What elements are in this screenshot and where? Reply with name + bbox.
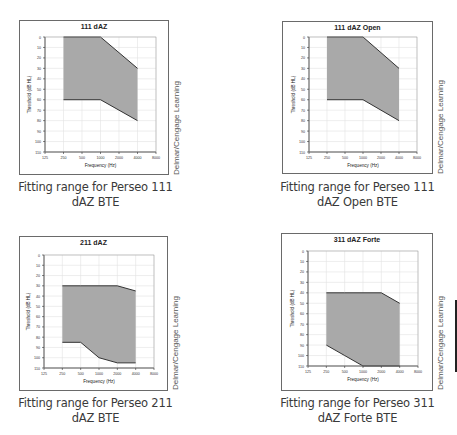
credit-text: Delmar/Cengage Learning xyxy=(436,296,445,390)
svg-text:20: 20 xyxy=(37,56,41,60)
svg-text:0: 0 xyxy=(39,36,41,40)
svg-text:100: 100 xyxy=(34,356,40,360)
svg-text:1000: 1000 xyxy=(359,156,367,160)
svg-text:70: 70 xyxy=(300,323,304,327)
svg-text:20: 20 xyxy=(301,56,305,60)
svg-text:250: 250 xyxy=(323,370,329,374)
svg-text:40: 40 xyxy=(301,77,305,81)
chart-frame: 111 dAZ 01020304050607080901001101252505… xyxy=(19,20,169,175)
svg-text:70: 70 xyxy=(36,325,40,329)
svg-text:80: 80 xyxy=(300,333,304,337)
fitting-range-area xyxy=(326,293,399,366)
chart-frame: 111 dAZ Open 010203040506070809010011012… xyxy=(282,21,433,174)
svg-text:70: 70 xyxy=(301,109,305,113)
svg-text:20: 20 xyxy=(300,270,304,274)
svg-text:100: 100 xyxy=(35,140,41,144)
svg-text:500: 500 xyxy=(342,370,348,374)
figure-caption: Fitting range for Perseo 111 dAZ Open BT… xyxy=(270,180,445,210)
svg-text:30: 30 xyxy=(37,67,41,71)
svg-text:Frequency (Hz): Frequency (Hz) xyxy=(347,377,379,382)
svg-text:8000: 8000 xyxy=(413,156,421,160)
svg-text:90: 90 xyxy=(36,346,40,350)
svg-text:250: 250 xyxy=(324,156,330,160)
svg-text:Threshold (dB HL): Threshold (dB HL) xyxy=(26,292,31,330)
svg-text:20: 20 xyxy=(36,274,40,278)
figure-caption: Fitting range for Perseo 111 dAZ BTE xyxy=(8,180,183,210)
svg-text:125: 125 xyxy=(305,370,311,374)
svg-text:1000: 1000 xyxy=(97,156,105,160)
svg-text:80: 80 xyxy=(301,119,305,123)
chart-frame: 311 dAZ Forte 01020304050607080901001101… xyxy=(281,233,433,391)
svg-text:40: 40 xyxy=(300,291,304,295)
svg-text:10: 10 xyxy=(301,46,305,50)
caption-line-2: dAZ BTE xyxy=(8,195,183,210)
caption-line-2: dAZ BTE xyxy=(8,411,183,426)
svg-text:0: 0 xyxy=(38,254,40,258)
caption-line-1: Fitting range for Perseo 211 xyxy=(8,396,183,411)
svg-text:50: 50 xyxy=(300,302,304,306)
svg-text:Threshold (dB HL): Threshold (dB HL) xyxy=(290,289,295,327)
svg-text:10: 10 xyxy=(300,260,304,264)
svg-text:Frequency (Hz): Frequency (Hz) xyxy=(347,163,379,168)
fitting-range-area xyxy=(62,286,135,363)
svg-text:0: 0 xyxy=(302,250,304,254)
svg-text:50: 50 xyxy=(36,305,40,309)
credit-text: Delmar/Cengage Learning xyxy=(172,81,181,175)
svg-text:500: 500 xyxy=(79,156,85,160)
svg-text:2000: 2000 xyxy=(113,372,121,376)
svg-text:Frequency (Hz): Frequency (Hz) xyxy=(85,163,117,168)
caption-line-1: Fitting range for Perseo 111 xyxy=(8,180,183,195)
svg-text:4000: 4000 xyxy=(134,156,142,160)
svg-text:Frequency (Hz): Frequency (Hz) xyxy=(83,379,115,384)
svg-text:40: 40 xyxy=(36,295,40,299)
svg-text:8000: 8000 xyxy=(414,370,422,374)
svg-text:0: 0 xyxy=(303,36,305,40)
svg-text:4000: 4000 xyxy=(396,370,404,374)
caption-line-1: Fitting range for Perseo 311 xyxy=(270,396,445,411)
svg-text:90: 90 xyxy=(301,130,305,134)
caption-line-2: dAZ Forte BTE xyxy=(270,411,445,426)
chart-frame: 211 dAZ 01020304050607080901001101252505… xyxy=(19,236,168,391)
credit-text: Delmar/Cengage Learning xyxy=(436,80,445,174)
svg-text:Threshold (dB HL): Threshold (dB HL) xyxy=(291,75,296,113)
svg-text:8000: 8000 xyxy=(152,156,160,160)
figure-caption: Fitting range for Perseo 311 dAZ Forte B… xyxy=(270,396,445,426)
svg-text:100: 100 xyxy=(298,354,304,358)
svg-text:10: 10 xyxy=(37,46,41,50)
svg-text:125: 125 xyxy=(41,372,47,376)
audiogram-plot: 0102030405060708090100110125250500100020… xyxy=(20,237,169,392)
svg-text:2000: 2000 xyxy=(377,156,385,160)
svg-text:80: 80 xyxy=(36,336,40,340)
svg-text:60: 60 xyxy=(37,98,41,102)
svg-text:110: 110 xyxy=(299,151,305,155)
svg-text:Threshold (dB HL): Threshold (dB HL) xyxy=(27,75,32,113)
svg-text:50: 50 xyxy=(301,88,305,92)
svg-text:80: 80 xyxy=(37,119,41,123)
audiogram-plot: 0102030405060708090100110125250500100020… xyxy=(20,21,170,176)
svg-text:10: 10 xyxy=(36,264,40,268)
svg-text:125: 125 xyxy=(306,156,312,160)
svg-text:40: 40 xyxy=(37,77,41,81)
svg-text:110: 110 xyxy=(35,151,41,155)
svg-text:125: 125 xyxy=(42,156,48,160)
svg-text:60: 60 xyxy=(36,315,40,319)
svg-text:70: 70 xyxy=(37,109,41,113)
svg-text:90: 90 xyxy=(37,130,41,134)
svg-text:4000: 4000 xyxy=(132,372,140,376)
svg-text:30: 30 xyxy=(300,281,304,285)
svg-text:8000: 8000 xyxy=(150,372,158,376)
svg-text:500: 500 xyxy=(342,156,348,160)
svg-text:2000: 2000 xyxy=(377,370,385,374)
svg-text:90: 90 xyxy=(300,344,304,348)
svg-text:60: 60 xyxy=(301,98,305,102)
svg-text:500: 500 xyxy=(78,372,84,376)
svg-text:2000: 2000 xyxy=(115,156,123,160)
figure-caption: Fitting range for Perseo 211 dAZ BTE xyxy=(8,396,183,426)
svg-text:1000: 1000 xyxy=(359,370,367,374)
svg-text:250: 250 xyxy=(59,372,65,376)
svg-text:110: 110 xyxy=(34,367,40,371)
caption-line-1: Fitting range for Perseo 111 xyxy=(270,180,445,195)
svg-text:1000: 1000 xyxy=(95,372,103,376)
svg-text:250: 250 xyxy=(61,156,67,160)
svg-text:110: 110 xyxy=(298,365,304,369)
